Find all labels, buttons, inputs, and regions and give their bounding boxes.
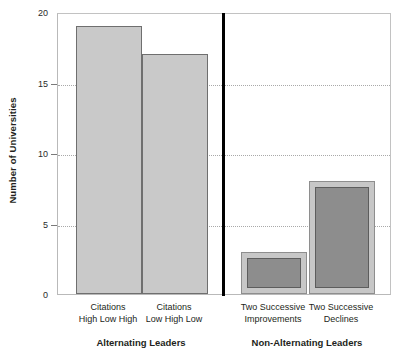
x-tick-label-1-line1: Citations [119,301,229,313]
x-tick-label-0-line1: Citations [53,301,163,313]
bar-2-inner-fill [247,258,301,288]
x-tick-label-3: Two SuccessiveDeclines [286,301,396,325]
y-tick-label-10: 10 [20,149,48,159]
x-tick-label-2-line1: Two Successive [218,301,328,313]
x-tick-label-2-line2: Improvements [218,313,328,325]
x-tick-label-0: CitationsHigh Low High [53,301,163,325]
bar-2[interactable] [241,252,307,294]
x-tick-label-3-line1: Two Successive [286,301,396,313]
x-tick-label-2: Two SuccessiveImprovements [218,301,328,325]
bar-chart-figure: Number of Universities 05101520 Citation… [0,0,403,361]
bar-0[interactable] [76,26,142,294]
y-axis-tick-labels: 05101520 [14,0,48,361]
x-tick-label-3-line2: Declines [286,313,396,325]
y-tick-10 [51,154,57,155]
group-divider [222,13,225,296]
bar-3[interactable] [309,181,375,294]
bar-3-inner-fill [315,187,369,288]
group-label-1: Non-Alternating Leaders [227,337,387,348]
x-tick-label-1: CitationsLow High Low [119,301,229,325]
x-tick-label-0-line2: High Low High [53,313,163,325]
x-tick-label-1-line2: Low High Low [119,313,229,325]
y-tick-label-20: 20 [20,8,48,18]
y-tick-5 [51,225,57,226]
y-tick-label-0: 0 [20,290,48,300]
y-tick-label-15: 15 [20,79,48,89]
y-tick-label-5: 5 [20,220,48,230]
bar-1[interactable] [142,54,208,294]
y-tick-15 [51,84,57,85]
group-label-0: Alternating Leaders [61,337,221,348]
